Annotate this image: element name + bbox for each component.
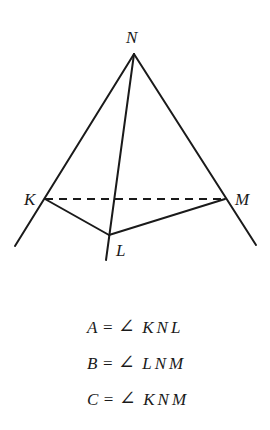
equals-sign: = bbox=[104, 390, 114, 409]
variable: C bbox=[87, 390, 99, 409]
variable: A bbox=[87, 318, 98, 337]
edge-nm-extended bbox=[134, 54, 256, 245]
equals-sign: = bbox=[103, 318, 113, 337]
label-l: L bbox=[115, 241, 125, 260]
label-k: K bbox=[23, 190, 37, 209]
label-m: M bbox=[234, 190, 250, 209]
label-n: N bbox=[125, 28, 139, 47]
tetrahedron-diagram: N K M L bbox=[0, 0, 270, 300]
angle-icon: ∠ bbox=[119, 386, 136, 410]
equation-c: C=∠KNM bbox=[87, 386, 189, 410]
angle-icon: ∠ bbox=[118, 350, 135, 374]
edge-nk-extended bbox=[15, 54, 134, 246]
variable: B bbox=[87, 354, 98, 373]
angle-points: KNL bbox=[142, 318, 183, 337]
equation-b: B=∠LNM bbox=[87, 350, 186, 374]
angle-points: LNM bbox=[142, 354, 186, 373]
angle-icon: ∠ bbox=[118, 314, 135, 338]
edge-kl bbox=[45, 199, 109, 235]
equals-sign: = bbox=[103, 354, 113, 373]
edge-lm bbox=[109, 199, 225, 235]
angle-points: KNM bbox=[143, 390, 189, 409]
equation-a: A=∠KNL bbox=[87, 314, 183, 338]
